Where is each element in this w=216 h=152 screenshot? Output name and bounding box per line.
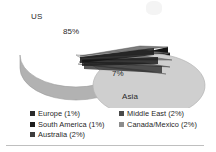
legend-column-right: Middle East (2%) Canada/Mexico (2%)	[119, 109, 197, 130]
chart-legend: Europe (1%) South America (1%) Australia…	[0, 109, 216, 144]
legend-label-australia: Australia (2%)	[38, 130, 85, 139]
legend-column-left: Europe (1%) South America (1%) Australia…	[30, 109, 105, 141]
legend-item-australia: Australia (2%)	[30, 130, 105, 139]
legend-swatch-icon	[30, 132, 35, 137]
legend-label-europe: Europe (1%)	[38, 109, 80, 118]
legend-item-middle-east: Middle East (2%)	[119, 109, 197, 118]
legend-item-canada-mexico: Canada/Mexico (2%)	[119, 120, 197, 129]
pie-plot-area: US 85% 7% Asia	[0, 0, 216, 108]
legend-item-south-america: South America (1%)	[30, 120, 105, 129]
legend-label-south-america: South America (1%)	[38, 120, 105, 129]
legend-swatch-icon	[119, 111, 124, 116]
pie-label-us: US	[31, 12, 42, 21]
legend-swatch-icon	[119, 122, 124, 127]
pie-value-us: 85%	[63, 27, 79, 36]
legend-label-middle-east: Middle East (2%)	[127, 109, 184, 118]
legend-swatch-icon	[30, 111, 35, 116]
pie-label-asia: Asia	[122, 92, 138, 101]
pie-chart-figure: US 85% 7% Asia Europe (1%) South America…	[0, 0, 216, 152]
legend-swatch-icon	[30, 122, 35, 127]
pie-value-asia: 7%	[112, 69, 124, 78]
legend-label-canada-mexico: Canada/Mexico (2%)	[127, 120, 197, 129]
footer-divider	[6, 145, 204, 146]
legend-item-europe: Europe (1%)	[30, 109, 105, 118]
